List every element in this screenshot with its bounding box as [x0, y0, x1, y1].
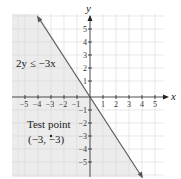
y-tick: −3: [78, 132, 87, 141]
y-tick: 4: [83, 38, 87, 47]
y-tick: 3: [83, 51, 87, 60]
x-tick: −3: [46, 100, 55, 109]
x-tick: 3: [127, 100, 131, 109]
test-point-coords: (−3, −3): [28, 133, 65, 146]
x-tick: 5: [153, 100, 157, 109]
y-tick: 5: [83, 25, 87, 34]
x-tick: 1: [101, 100, 105, 109]
y-tick: 1: [83, 77, 87, 86]
y-tick: −5: [78, 158, 87, 167]
y-tick: −4: [78, 145, 87, 154]
test-point-label: Test point: [27, 118, 71, 130]
x-tick: −4: [33, 100, 42, 109]
inequality-graph: x y −5 −4 −3 −2 −1 1 2 3 4 5 5 4 3 2 1 −…: [0, 0, 181, 179]
y-tick: 2: [83, 64, 87, 73]
x-tick: 2: [114, 100, 118, 109]
x-axis-arrow-icon: [163, 95, 169, 100]
inequality-label: 2y ≤ −3x: [16, 57, 56, 69]
x-axis-label: x: [170, 90, 176, 102]
test-point-marker: [50, 135, 52, 137]
y-tick: −1: [78, 106, 87, 115]
x-tick: −2: [59, 100, 68, 109]
y-axis-label: y: [85, 2, 91, 14]
y-tick: −2: [78, 119, 87, 128]
x-tick: 4: [140, 100, 144, 109]
x-tick: −5: [20, 100, 29, 109]
